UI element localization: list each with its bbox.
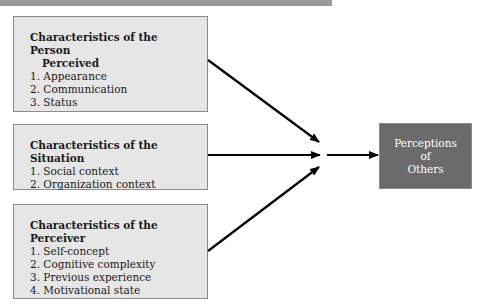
situation-list: 1. Social context 2. Organization contex… [30,165,199,191]
output-line: of [420,150,430,163]
arrow-perceiver-to-perception [208,167,319,251]
situation-title: Characteristics of the Situation [30,139,199,165]
output-line: Perceptions [394,137,457,150]
perceiver-list: 1. Self-concept 2. Cognitive complexity … [30,245,199,297]
header-bar [0,0,332,6]
list-item: 3. Previous experience [30,271,199,284]
list-item: 1. Social context [30,165,199,178]
list-item: 3. Status [30,96,199,109]
person-perceived-list: 1. Appearance 2. Communication 3. Status [30,70,199,109]
title-line-1: Characteristics of the Person [30,31,158,56]
list-item: 1. Appearance [30,70,199,83]
list-item: 2. Organization context [30,178,199,191]
list-item: 2. Cognitive complexity [30,258,199,271]
person-perceived-box: Characteristics of the Person Perceived … [13,16,208,112]
title-line-2: Perceived [30,57,199,70]
situation-box: Characteristics of the Situation 1. Soci… [13,124,208,190]
perceiver-title: Characteristics of the Perceiver [30,219,199,245]
person-perceived-title: Characteristics of the Person Perceived [30,31,199,70]
title-line-1: Characteristics of the Perceiver [30,219,158,244]
list-item: 1. Self-concept [30,245,199,258]
title-line-1: Characteristics of the Situation [30,139,158,164]
perceiver-box: Characteristics of the Perceiver 1. Self… [13,204,208,299]
list-item: 2. Communication [30,83,199,96]
list-item: 4. Motivational state [30,284,199,297]
arrow-person-to-perception [208,60,319,142]
perceptions-of-others-box: Perceptions of Others [379,123,472,189]
output-line: Others [407,163,443,176]
